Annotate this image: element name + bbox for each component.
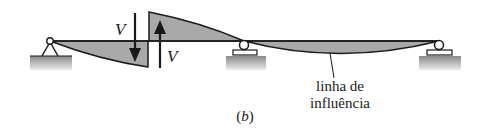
shear-label-down: V bbox=[115, 20, 128, 39]
influence-line-label-line1: linha de bbox=[316, 78, 364, 94]
figure-label: (b) bbox=[236, 108, 254, 125]
influence-line-diagram: V V linha de influência (b) bbox=[0, 0, 490, 138]
leader-line bbox=[330, 53, 334, 78]
influence-line-label-line2: influência bbox=[310, 95, 370, 111]
figure-paren-close: ) bbox=[249, 108, 254, 125]
influence-region-right-span bbox=[244, 41, 439, 54]
influence-region-positive bbox=[149, 12, 244, 41]
shear-label-up: V bbox=[167, 47, 180, 66]
